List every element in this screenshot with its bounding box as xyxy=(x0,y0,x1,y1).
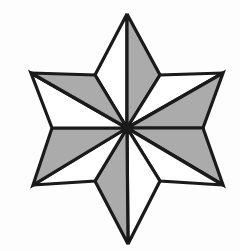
six-pointed-star-figure xyxy=(0,0,240,251)
figure-canvas xyxy=(0,0,240,251)
star-segment-group xyxy=(31,14,223,244)
